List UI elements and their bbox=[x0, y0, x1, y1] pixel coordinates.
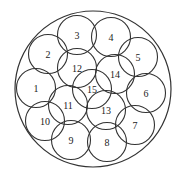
circle-label: 11 bbox=[63, 100, 73, 111]
circle-label: 10 bbox=[40, 116, 50, 127]
circle-label: 2 bbox=[46, 49, 51, 60]
circle-9: 9 bbox=[52, 121, 91, 160]
circle-label: 13 bbox=[101, 105, 111, 116]
inner-circles-group: 123456789101112131415 bbox=[17, 16, 166, 162]
circle-label: 4 bbox=[109, 32, 114, 43]
circle-label: 14 bbox=[110, 69, 120, 80]
circle-label: 9 bbox=[69, 135, 74, 146]
circle-6: 6 bbox=[127, 74, 166, 113]
circle-13: 13 bbox=[87, 91, 126, 130]
circle-2: 2 bbox=[29, 35, 68, 74]
circle-label: 8 bbox=[105, 137, 110, 148]
circle-label: 7 bbox=[133, 120, 138, 131]
circle-label: 15 bbox=[87, 84, 97, 95]
circle-packing-diagram: 123456789101112131415 bbox=[0, 0, 184, 177]
circle-label: 3 bbox=[75, 30, 80, 41]
circle-label: 12 bbox=[72, 63, 82, 74]
circle-4: 4 bbox=[92, 18, 131, 57]
circle-10: 10 bbox=[26, 102, 65, 141]
circle-label: 6 bbox=[144, 88, 149, 99]
circle-7: 7 bbox=[116, 106, 155, 145]
circle-8: 8 bbox=[88, 123, 127, 162]
circle-label: 1 bbox=[34, 83, 39, 94]
circle-label: 5 bbox=[136, 52, 141, 63]
